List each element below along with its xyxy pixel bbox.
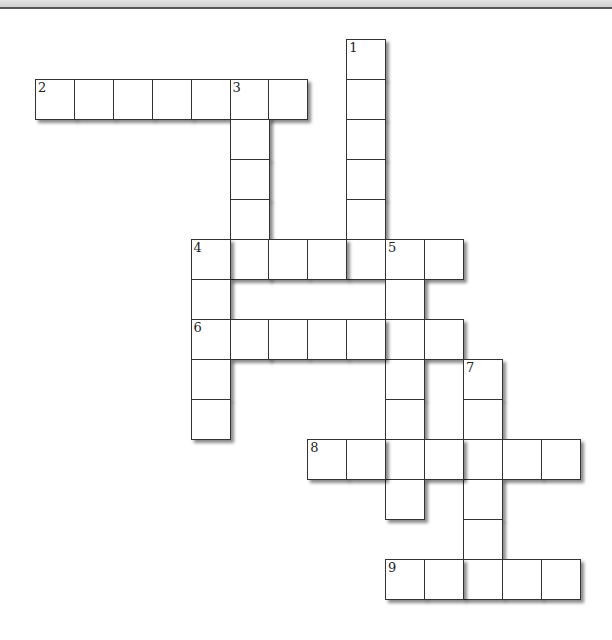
crossword-cell[interactable] xyxy=(307,319,347,360)
crossword-cell[interactable]: 1 xyxy=(346,39,386,80)
crossword-cell[interactable] xyxy=(113,79,153,120)
crossword-cell[interactable] xyxy=(385,359,425,400)
crossword-cell[interactable] xyxy=(152,79,192,120)
crossword-cell[interactable] xyxy=(346,439,386,480)
crossword-cell[interactable] xyxy=(541,559,581,600)
crossword-cell[interactable] xyxy=(385,439,425,480)
crossword-cell[interactable]: 5 xyxy=(385,239,425,280)
crossword-cell[interactable] xyxy=(230,119,270,160)
crossword-cell[interactable] xyxy=(502,559,542,600)
crossword-cell[interactable] xyxy=(191,399,231,440)
crossword-cell[interactable] xyxy=(191,79,231,120)
crossword-cell[interactable]: 2 xyxy=(35,79,75,120)
crossword-cell[interactable] xyxy=(268,79,308,120)
crossword-cell[interactable] xyxy=(230,199,270,240)
crossword-cell[interactable] xyxy=(346,199,386,240)
crossword-cell[interactable] xyxy=(463,399,503,440)
crossword-cell[interactable]: 7 xyxy=(463,359,503,400)
crossword-cell[interactable] xyxy=(346,319,386,360)
crossword-cell[interactable] xyxy=(463,439,503,480)
crossword-cell[interactable] xyxy=(191,359,231,400)
crossword-cell[interactable] xyxy=(541,439,581,480)
crossword-cell[interactable] xyxy=(346,239,386,280)
crossword-cell[interactable] xyxy=(230,319,270,360)
clue-number: 1 xyxy=(349,41,357,54)
crossword-cell[interactable] xyxy=(346,119,386,160)
crossword-cell[interactable]: 8 xyxy=(307,439,347,480)
crossword-cell[interactable] xyxy=(385,319,425,360)
crossword-grid: 123456789 xyxy=(0,0,612,640)
crossword-cell[interactable] xyxy=(268,239,308,280)
crossword-cell[interactable] xyxy=(463,479,503,520)
crossword-cell[interactable]: 6 xyxy=(191,319,231,360)
crossword-cell[interactable] xyxy=(424,319,464,360)
crossword-cell[interactable] xyxy=(346,159,386,200)
crossword-cell[interactable] xyxy=(502,439,542,480)
clue-number: 2 xyxy=(38,81,46,94)
crossword-cell[interactable] xyxy=(385,279,425,320)
crossword-cell[interactable] xyxy=(307,239,347,280)
crossword-cell[interactable] xyxy=(463,519,503,560)
clue-number: 9 xyxy=(388,561,396,574)
crossword-cell[interactable]: 9 xyxy=(385,559,425,600)
crossword-cell[interactable] xyxy=(424,559,464,600)
clue-number: 6 xyxy=(194,321,202,334)
crossword-cell[interactable] xyxy=(463,559,503,600)
clue-number: 5 xyxy=(388,241,396,254)
clue-number: 8 xyxy=(310,441,318,454)
clue-number: 4 xyxy=(194,241,202,254)
crossword-cell[interactable] xyxy=(230,239,270,280)
crossword-cell[interactable] xyxy=(268,319,308,360)
crossword-cell[interactable] xyxy=(424,239,464,280)
crossword-cell[interactable]: 4 xyxy=(191,239,231,280)
clue-number: 7 xyxy=(466,361,474,374)
crossword-cell[interactable] xyxy=(346,79,386,120)
crossword-cell[interactable] xyxy=(230,159,270,200)
crossword-cell[interactable]: 3 xyxy=(230,79,270,120)
crossword-cell[interactable] xyxy=(74,79,114,120)
clue-number: 3 xyxy=(233,81,241,94)
crossword-cell[interactable] xyxy=(385,479,425,520)
crossword-cell[interactable] xyxy=(424,439,464,480)
crossword-cell[interactable] xyxy=(385,399,425,440)
crossword-cell[interactable] xyxy=(191,279,231,320)
